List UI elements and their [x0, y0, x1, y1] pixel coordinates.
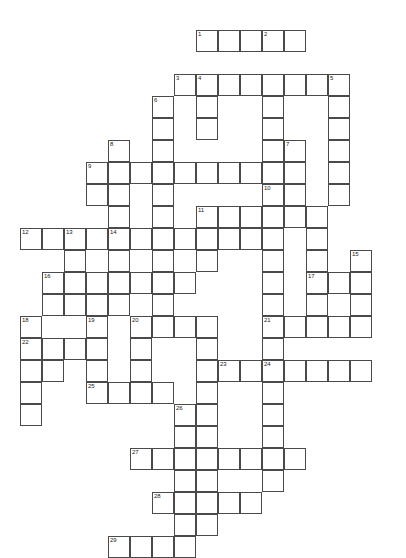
- crossword-cell[interactable]: [350, 250, 372, 272]
- crossword-cell[interactable]: [130, 228, 152, 250]
- crossword-cell[interactable]: [328, 118, 350, 140]
- crossword-cell[interactable]: [218, 448, 240, 470]
- crossword-cell[interactable]: [86, 382, 108, 404]
- crossword-cell[interactable]: [86, 338, 108, 360]
- crossword-cell[interactable]: [196, 118, 218, 140]
- crossword-cell[interactable]: [284, 448, 306, 470]
- crossword-cell[interactable]: [240, 360, 262, 382]
- crossword-cell[interactable]: [108, 206, 130, 228]
- crossword-cell[interactable]: [196, 382, 218, 404]
- crossword-cell[interactable]: [152, 140, 174, 162]
- crossword-cell[interactable]: [306, 228, 328, 250]
- crossword-cell[interactable]: [64, 228, 86, 250]
- crossword-cell[interactable]: [174, 492, 196, 514]
- crossword-cell[interactable]: [152, 250, 174, 272]
- crossword-cell[interactable]: [262, 426, 284, 448]
- crossword-cell[interactable]: [328, 140, 350, 162]
- crossword-cell[interactable]: [86, 360, 108, 382]
- crossword-cell[interactable]: [262, 448, 284, 470]
- crossword-cell[interactable]: [218, 162, 240, 184]
- crossword-cell[interactable]: [152, 448, 174, 470]
- crossword-cell[interactable]: [174, 74, 196, 96]
- crossword-cell[interactable]: [262, 206, 284, 228]
- crossword-cell[interactable]: [328, 360, 350, 382]
- crossword-cell[interactable]: [218, 30, 240, 52]
- crossword-cell[interactable]: [262, 140, 284, 162]
- crossword-cell[interactable]: [284, 140, 306, 162]
- crossword-cell[interactable]: [262, 228, 284, 250]
- crossword-cell[interactable]: [262, 316, 284, 338]
- crossword-cell[interactable]: [196, 404, 218, 426]
- crossword-cell[interactable]: [196, 338, 218, 360]
- crossword-cell[interactable]: [130, 360, 152, 382]
- crossword-cell[interactable]: [152, 118, 174, 140]
- crossword-cell[interactable]: [130, 338, 152, 360]
- crossword-cell[interactable]: [240, 228, 262, 250]
- crossword-cell[interactable]: [328, 96, 350, 118]
- crossword-cell[interactable]: [130, 162, 152, 184]
- crossword-cell[interactable]: [218, 360, 240, 382]
- crossword-cell[interactable]: [262, 404, 284, 426]
- crossword-cell[interactable]: [152, 536, 174, 558]
- crossword-cell[interactable]: [218, 228, 240, 250]
- crossword-cell[interactable]: [152, 294, 174, 316]
- crossword-cell[interactable]: [196, 228, 218, 250]
- crossword-cell[interactable]: [152, 492, 174, 514]
- crossword-cell[interactable]: [108, 294, 130, 316]
- crossword-cell[interactable]: [152, 316, 174, 338]
- crossword-cell[interactable]: [20, 404, 42, 426]
- crossword-cell[interactable]: [108, 228, 130, 250]
- crossword-cell[interactable]: [262, 360, 284, 382]
- crossword-cell[interactable]: [218, 492, 240, 514]
- crossword-cell[interactable]: [328, 184, 350, 206]
- crossword-cell[interactable]: [174, 272, 196, 294]
- crossword-cell[interactable]: [42, 360, 64, 382]
- crossword-cell[interactable]: [196, 492, 218, 514]
- crossword-cell[interactable]: [262, 338, 284, 360]
- crossword-cell[interactable]: [350, 316, 372, 338]
- crossword-cell[interactable]: [20, 338, 42, 360]
- crossword-cell[interactable]: [262, 162, 284, 184]
- crossword-cell[interactable]: [174, 536, 196, 558]
- crossword-cell[interactable]: [218, 206, 240, 228]
- crossword-cell[interactable]: [306, 360, 328, 382]
- crossword-cell[interactable]: [196, 514, 218, 536]
- crossword-cell[interactable]: [174, 228, 196, 250]
- crossword-cell[interactable]: [152, 184, 174, 206]
- crossword-cell[interactable]: [328, 74, 350, 96]
- crossword-cell[interactable]: [20, 360, 42, 382]
- crossword-cell[interactable]: [196, 96, 218, 118]
- crossword-cell[interactable]: [350, 294, 372, 316]
- crossword-cell[interactable]: [152, 272, 174, 294]
- crossword-cell[interactable]: [174, 470, 196, 492]
- crossword-cell[interactable]: [262, 294, 284, 316]
- crossword-cell[interactable]: [218, 74, 240, 96]
- crossword-cell[interactable]: [196, 30, 218, 52]
- crossword-cell[interactable]: [64, 294, 86, 316]
- crossword-cell[interactable]: [284, 74, 306, 96]
- crossword-cell[interactable]: [108, 536, 130, 558]
- crossword-cell[interactable]: [196, 162, 218, 184]
- crossword-cell[interactable]: [262, 74, 284, 96]
- crossword-cell[interactable]: [328, 272, 350, 294]
- crossword-cell[interactable]: [262, 382, 284, 404]
- crossword-cell[interactable]: [86, 162, 108, 184]
- crossword-cell[interactable]: [130, 382, 152, 404]
- crossword-cell[interactable]: [262, 470, 284, 492]
- crossword-cell[interactable]: [196, 74, 218, 96]
- crossword-cell[interactable]: [306, 294, 328, 316]
- crossword-cell[interactable]: [108, 162, 130, 184]
- crossword-cell[interactable]: [86, 184, 108, 206]
- crossword-cell[interactable]: [196, 316, 218, 338]
- crossword-cell[interactable]: [262, 96, 284, 118]
- crossword-cell[interactable]: [86, 316, 108, 338]
- crossword-cell[interactable]: [284, 184, 306, 206]
- crossword-cell[interactable]: [240, 448, 262, 470]
- crossword-cell[interactable]: [174, 514, 196, 536]
- crossword-cell[interactable]: [306, 272, 328, 294]
- crossword-cell[interactable]: [262, 118, 284, 140]
- crossword-cell[interactable]: [284, 360, 306, 382]
- crossword-cell[interactable]: [350, 360, 372, 382]
- crossword-cell[interactable]: [86, 294, 108, 316]
